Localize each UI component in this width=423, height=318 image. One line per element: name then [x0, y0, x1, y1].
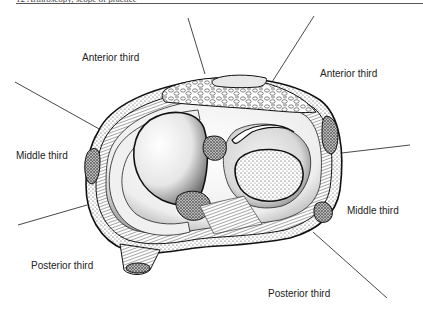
label-posterior-third-left: Posterior third: [31, 260, 93, 271]
popliteus-tendon-knob: [314, 202, 332, 222]
leader-middle-left-lower: [18, 205, 87, 225]
acl-stump: [203, 136, 226, 160]
leader-middle-left-upper: [15, 82, 101, 130]
label-posterior-third-right: Posterior third: [268, 288, 330, 299]
posterior-tendon-end: [126, 263, 150, 273]
leader-anterior-top-left: [188, 18, 205, 74]
leader-middle-right: [333, 145, 410, 154]
medial-collateral-pad: [85, 148, 100, 184]
label-anterior-third-right: Anterior third: [320, 68, 377, 79]
leader-anterior-top-right: [272, 16, 314, 82]
label-middle-third-right: Middle third: [347, 205, 399, 216]
label-middle-third-left: Middle third: [16, 150, 68, 161]
lateral-articular-surface: [235, 149, 303, 201]
label-anterior-third-left: Anterior third: [82, 52, 139, 63]
patellar-tendon-section: [212, 75, 266, 88]
